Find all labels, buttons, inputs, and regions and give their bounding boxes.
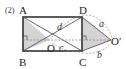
label-d: D (79, 4, 87, 16)
shaded-triangle-left (23, 17, 50, 51)
label-o: O (47, 42, 55, 54)
label-segment-b: b (97, 49, 102, 60)
label-c: C (79, 56, 86, 68)
label-b: B (19, 56, 26, 68)
label-a: A (19, 4, 27, 16)
label-segment-a: a (99, 18, 104, 29)
label-o-prime: O′ (111, 35, 121, 47)
geometry-diagram: (2) A B C D O O′ d c a b (0, 0, 126, 69)
label-segment-c: c (59, 42, 64, 53)
problem-number: (2) (5, 6, 15, 15)
